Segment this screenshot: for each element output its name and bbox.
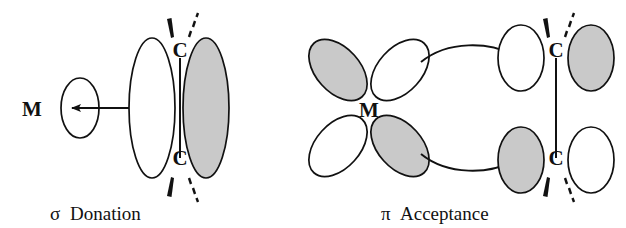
pi-caption-text: Acceptance bbox=[400, 203, 489, 224]
pi-caption-symbol: π bbox=[381, 203, 391, 224]
sigma-caption-symbol: σ bbox=[50, 203, 60, 224]
pi-ligand-lobe-upper-left bbox=[498, 25, 544, 91]
figure-canvas: M C C σ Donation bbox=[0, 0, 626, 228]
pi-carbon-top-label: C bbox=[548, 38, 563, 62]
pi-ligand-lobe-lower-left bbox=[498, 127, 544, 193]
pi-ligand-lobe-lower-right bbox=[568, 127, 614, 193]
sigma-ligand-lobe-empty bbox=[129, 38, 175, 178]
pi-metal-label: M bbox=[359, 98, 379, 122]
sigma-carbon-top-label: C bbox=[172, 38, 187, 62]
pi-ligand-lobe-upper-right bbox=[568, 25, 614, 91]
orbital-diagram-svg: M C C σ Donation bbox=[0, 0, 626, 228]
pi-carbon-bottom-label: C bbox=[548, 146, 563, 170]
sigma-carbon-bottom-label: C bbox=[172, 146, 187, 170]
sigma-caption-text: Donation bbox=[70, 203, 141, 224]
sigma-ligand-lobe-shaded bbox=[183, 38, 229, 178]
sigma-metal-label: M bbox=[22, 97, 42, 121]
